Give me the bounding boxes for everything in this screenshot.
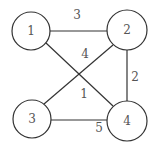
node-4: 4 [107, 101, 147, 141]
edge-weight-2-4: 2 [131, 70, 139, 84]
edge-weight-3-2: 4 [81, 47, 89, 61]
node-label: 1 [27, 24, 35, 38]
edge-weight-1-4: 1 [80, 87, 88, 101]
node-3: 3 [13, 100, 51, 138]
edge-weight-1-2: 3 [73, 8, 81, 22]
node-label: 3 [28, 112, 36, 126]
node-label: 4 [123, 114, 131, 128]
edge-3-2 [44, 45, 113, 104]
weighted-graph-diagram: 1 2 3 4 3 4 2 1 5 [0, 0, 155, 151]
edge-weight-3-4: 5 [95, 121, 103, 135]
node-label: 2 [123, 23, 131, 37]
node-2: 2 [107, 10, 147, 50]
node-1: 1 [12, 12, 50, 50]
